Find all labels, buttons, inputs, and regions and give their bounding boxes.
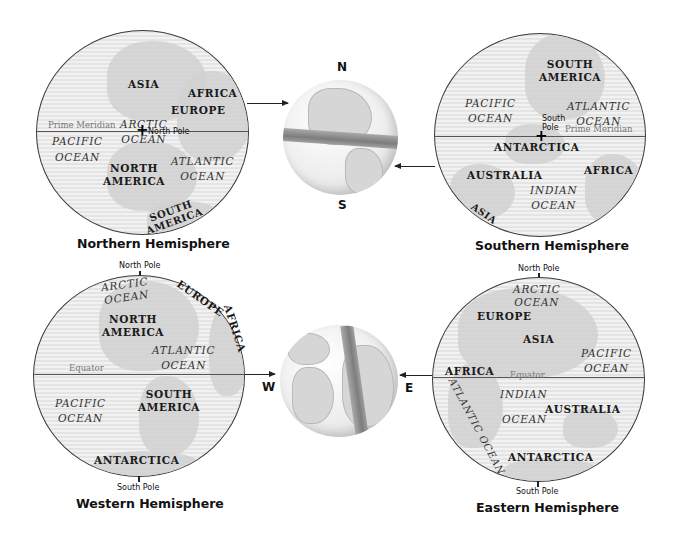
north-pole-top-label: North Pole — [518, 264, 560, 273]
label-antarctica: ANTARCTICA — [94, 454, 179, 467]
southern-hemisphere-caption: Southern Hemisphere — [475, 238, 629, 253]
pacific-line1: PACIFIC — [52, 135, 103, 148]
atlantic-line2: OCEAN — [152, 359, 215, 372]
arctic-line1: ARCTIC — [513, 283, 561, 296]
na-line1: NORTH — [102, 313, 164, 326]
atlantic-line2: OCEAN — [171, 170, 234, 183]
prime-meridian-label: Prime Meridian — [565, 124, 633, 134]
label-antarctica: ANTARCTICA — [508, 451, 593, 464]
arrow-to-globe-we — [245, 374, 275, 375]
west-direction-label: W — [262, 380, 275, 394]
label-australia: AUSTRALIA — [545, 403, 620, 416]
north-direction-label: N — [337, 60, 347, 74]
label-pacific-ocean: PACIFIC OCEAN — [55, 397, 106, 425]
arrow-from-eastern — [400, 375, 432, 376]
label-pacific-ocean: PACIFIC OCEAN — [581, 347, 632, 375]
label-indian-ocean-line2: OCEAN — [502, 413, 547, 426]
north-pole-top-label: North Pole — [119, 261, 161, 270]
label-atlantic-ocean: ATLANTIC OCEAN — [152, 344, 215, 372]
pacific-line1: PACIFIC — [465, 97, 516, 110]
south-america-globe — [345, 148, 383, 194]
globe-west-east — [280, 325, 398, 437]
label-north-america: NORTH AMERICA — [103, 162, 165, 188]
label-africa: AFRICA — [188, 87, 237, 100]
pacific-line2: OCEAN — [581, 362, 632, 375]
label-africa: AFRICA — [584, 164, 633, 177]
pacific-line2: OCEAN — [465, 112, 516, 125]
equator-label: Equator — [510, 370, 545, 380]
sa-line2: AMERICA — [138, 401, 200, 414]
north-pole-marker-icon: + — [136, 123, 149, 138]
indian-line1: INDIAN — [530, 184, 577, 197]
pacific-line1: PACIFIC — [581, 347, 632, 360]
label-pacific-ocean: PACIFIC OCEAN — [465, 97, 516, 125]
indian-line2: OCEAN — [530, 199, 577, 212]
sa-line1: SOUTH — [138, 388, 200, 401]
south-america-globe — [292, 367, 334, 424]
na-line1: NORTH — [103, 162, 165, 175]
label-europe: EUROPE — [477, 310, 532, 323]
equator-band — [283, 128, 398, 149]
south-direction-label: S — [338, 198, 347, 212]
globe-north-south — [283, 80, 398, 195]
north-pole-label: North Pole — [148, 127, 190, 136]
western-hemisphere-caption: Western Hemisphere — [76, 496, 224, 511]
label-australia: AUSTRALIA — [467, 169, 542, 182]
sa-line2: AMERICA — [539, 71, 601, 84]
label-pacific-ocean: PACIFIC OCEAN — [52, 135, 103, 164]
label-south-america: SOUTH AMERICA — [539, 58, 601, 84]
sa-line1: SOUTH — [539, 58, 601, 71]
south-pole-bottom-label: South Pole — [516, 487, 558, 496]
eastern-hemisphere-caption: Eastern Hemisphere — [476, 500, 619, 515]
label-europe: EUROPE — [171, 104, 226, 117]
label-indian-ocean-line1: INDIAN — [500, 388, 547, 401]
arctic-line2: OCEAN — [513, 296, 561, 309]
label-south-america: SOUTH AMERICA — [138, 388, 200, 414]
atlantic-line1: ATLANTIC — [171, 155, 234, 168]
label-north-america: NORTH AMERICA — [102, 313, 164, 339]
pacific-line2: OCEAN — [52, 151, 103, 164]
na-line2: AMERICA — [102, 326, 164, 339]
label-asia: ASIA — [523, 333, 554, 346]
northern-hemisphere-caption: Northern Hemisphere — [77, 236, 230, 251]
prime-meridian-label: Prime Meridian — [48, 120, 116, 130]
south-pole-line1: South — [542, 114, 565, 123]
label-africa: AFRICA — [445, 365, 494, 378]
label-arctic-ocean: ARCTIC OCEAN — [513, 283, 561, 309]
pacific-line2: OCEAN — [55, 412, 106, 425]
pacific-line1: PACIFIC — [55, 397, 106, 410]
label-antarctica: ANTARCTICA — [494, 141, 579, 154]
atlantic-line1: ATLANTIC — [567, 100, 630, 113]
label-indian-ocean: INDIAN OCEAN — [530, 184, 577, 212]
arrow-from-southern — [395, 166, 435, 167]
label-asia: ASIA — [128, 78, 159, 91]
na-line2: AMERICA — [103, 175, 165, 188]
label-atlantic-ocean: ATLANTIC OCEAN — [171, 155, 234, 183]
east-direction-label: E — [405, 381, 413, 395]
atlantic-line1: ATLANTIC — [152, 344, 215, 357]
south-pole-tick — [138, 476, 140, 482]
arrow-to-globe-ns — [247, 103, 288, 104]
equator-line — [34, 374, 244, 375]
equator-label: Equator — [69, 363, 104, 373]
north-america-globe — [288, 333, 330, 365]
south-pole-bottom-label: South Pole — [117, 483, 159, 492]
